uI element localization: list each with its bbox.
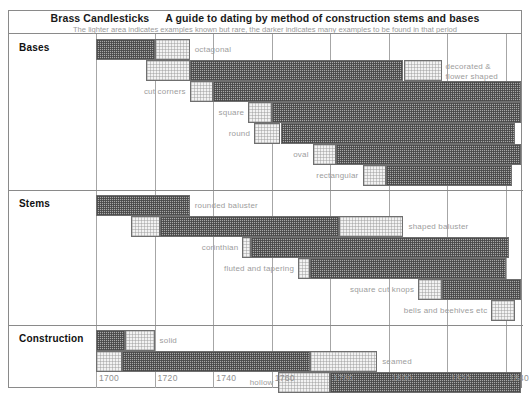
- bar-label: seamed: [382, 351, 412, 372]
- bar-label: octagonal: [195, 39, 232, 60]
- bar-segment: [281, 123, 515, 144]
- chart-plot-area: Basesoctagonaldecorated &flower shapedcu…: [9, 34, 523, 388]
- bar-label: square: [9, 102, 244, 123]
- section-divider: [9, 325, 523, 326]
- bar-label: cut corners: [9, 81, 186, 102]
- bar-segment: [125, 330, 154, 351]
- axis-tick-1780: 1780: [333, 373, 353, 383]
- bar-segment: [336, 144, 521, 165]
- bar-label: shaped baluster: [409, 216, 469, 237]
- axis-tick-1800: 1800: [392, 373, 412, 383]
- bar-label: square cut knops: [9, 279, 414, 300]
- bar-segment: [298, 258, 310, 279]
- bar-segment: [272, 102, 521, 123]
- bar-label: rectangular: [9, 165, 359, 186]
- axis-tick-1720: 1720: [158, 373, 178, 383]
- section-label-construction: Construction: [19, 333, 84, 344]
- bar-label: decorated &flower shaped: [446, 60, 498, 83]
- bar-label: fluted and tapering: [9, 258, 294, 279]
- bar-segment: [96, 351, 122, 372]
- axis-tick-1820: 1820: [450, 373, 470, 383]
- bar-segment: [363, 165, 386, 186]
- x-axis: 17001720174017601780180018201840: [9, 371, 523, 387]
- page-title: Brass CandlesticksA guide to dating by m…: [9, 12, 521, 24]
- section-divider: [9, 190, 523, 191]
- bar-segment: [190, 60, 404, 81]
- bar-segment: [146, 60, 190, 81]
- bar-segment: [131, 216, 160, 237]
- bar-segment: [242, 237, 251, 258]
- bar-label: bells and beehives etc: [9, 300, 487, 321]
- bar-segment: [310, 351, 377, 372]
- title-main: Brass Candlesticks: [51, 12, 150, 24]
- axis-tick-1840: 1840: [509, 373, 529, 383]
- bar-segment: [418, 279, 441, 300]
- axis-tick-1740: 1740: [216, 373, 236, 383]
- bar-label: corinthian: [9, 237, 238, 258]
- bar-segment: [251, 237, 509, 258]
- bar-segment: [339, 216, 403, 237]
- bar-segment: [122, 351, 309, 372]
- title-subtitle: A guide to dating by method of construct…: [165, 12, 479, 24]
- bar-segment: [160, 216, 339, 237]
- bar-label: solid: [160, 330, 177, 351]
- bar-segment: [313, 144, 336, 165]
- bar-segment: [442, 279, 521, 300]
- bar-segment: [254, 123, 280, 144]
- bar-label: rounded baluster: [195, 195, 258, 216]
- bar-segment: [96, 195, 190, 216]
- axis-tick-1760: 1760: [275, 373, 295, 383]
- bar-segment: [155, 39, 190, 60]
- axis-tick-1700: 1700: [99, 373, 119, 383]
- bar-segment: [190, 81, 213, 102]
- bar-segment: [96, 39, 155, 60]
- chart-frame: Brass CandlesticksA guide to dating by m…: [8, 10, 522, 388]
- bar-segment: [96, 330, 125, 351]
- bar-segment: [213, 81, 521, 102]
- bar-label: oval: [9, 144, 309, 165]
- section-label-bases: Bases: [19, 42, 49, 53]
- bar-segment: [491, 300, 514, 321]
- chart-header: Brass CandlesticksA guide to dating by m…: [9, 11, 521, 34]
- section-label-stems: Stems: [19, 198, 50, 209]
- legend-note: The lighter area indicates examples know…: [9, 25, 521, 34]
- bar-segment: [310, 258, 506, 279]
- bar-segment: [386, 165, 512, 186]
- bar-segment: [404, 60, 442, 81]
- bar-segment: [248, 102, 271, 123]
- bar-label: round: [9, 123, 250, 144]
